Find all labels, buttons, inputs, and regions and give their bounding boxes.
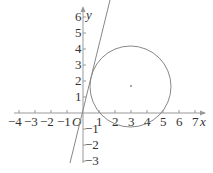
x-tick-label: 5: [160, 114, 167, 129]
coordinate-diagram: −4 −3 −2 −1 1 2 3 4 5 6 7 x O 6 y 5 4 3 …: [0, 0, 213, 173]
y-tick-label: −3: [85, 153, 99, 168]
x-tick-label: 6: [176, 114, 183, 129]
circle-center-dot: [130, 85, 132, 87]
y-tick-label: 4: [75, 41, 82, 56]
x-tick-label: −3: [24, 114, 38, 129]
y-tick-label: 2: [75, 73, 82, 88]
x-tick-label: −4: [8, 114, 22, 129]
y-tick-label: 6: [75, 9, 82, 24]
y-axis-label: y: [84, 7, 92, 22]
x-axis-label: x: [199, 114, 206, 129]
x-tick-label: 7: [192, 114, 199, 129]
x-tick-label: −1: [57, 114, 71, 129]
x-tick-label: 2: [112, 114, 119, 129]
y-tick-label: 1: [75, 89, 82, 104]
y-tick-label: −2: [85, 137, 99, 152]
y-tick-label: −1: [85, 121, 99, 136]
y-tick-label: 5: [75, 25, 82, 40]
x-tick-label: −2: [40, 114, 54, 129]
y-tick-label: 3: [75, 57, 82, 72]
